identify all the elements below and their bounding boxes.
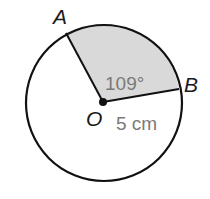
center-point (99, 98, 107, 106)
point-a-label: A (51, 5, 67, 28)
angle-label: 109° (105, 73, 144, 94)
circle-sector-diagram: A B O 109° 5 cm (0, 0, 210, 199)
point-b-label: B (184, 73, 198, 96)
center-label: O (86, 107, 102, 130)
radius-label: 5 cm (116, 113, 157, 134)
